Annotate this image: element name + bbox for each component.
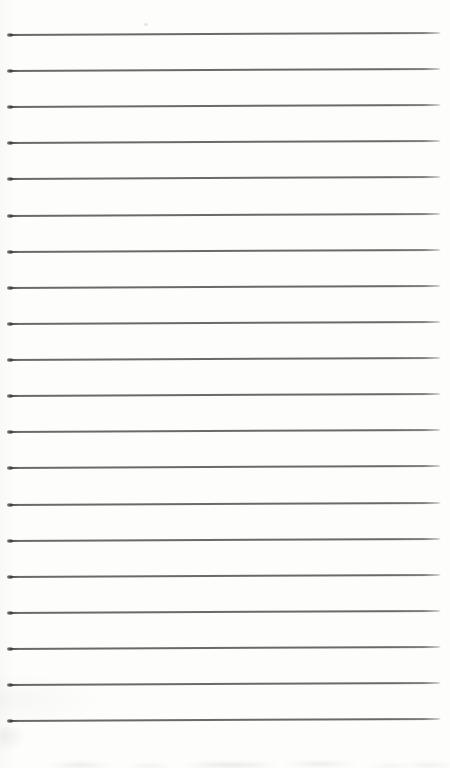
left-page-edge-smudge xyxy=(0,726,26,752)
notebook-page xyxy=(0,0,450,768)
ruled-line xyxy=(7,176,441,180)
ruled-line xyxy=(7,393,441,397)
ruled-line xyxy=(7,357,441,361)
ruled-line xyxy=(7,682,441,686)
ruled-line xyxy=(7,249,441,253)
ruled-line xyxy=(7,104,441,108)
ruled-line xyxy=(7,32,441,36)
ruled-lines-container xyxy=(0,0,450,768)
ruled-line xyxy=(7,68,441,72)
ruled-line xyxy=(7,429,441,433)
ruled-line xyxy=(7,646,441,650)
ruled-line xyxy=(7,574,441,578)
ruled-line xyxy=(7,140,441,144)
ruled-line xyxy=(7,465,441,469)
ruled-line xyxy=(7,213,441,217)
ruled-line xyxy=(7,321,441,325)
ruled-line xyxy=(7,502,441,506)
paper-speck xyxy=(144,23,148,26)
ruled-line xyxy=(7,538,441,542)
ruled-line xyxy=(7,610,441,614)
bottom-page-edge-shadow xyxy=(0,754,450,768)
ruled-line xyxy=(7,718,441,722)
ruled-line xyxy=(7,285,441,289)
